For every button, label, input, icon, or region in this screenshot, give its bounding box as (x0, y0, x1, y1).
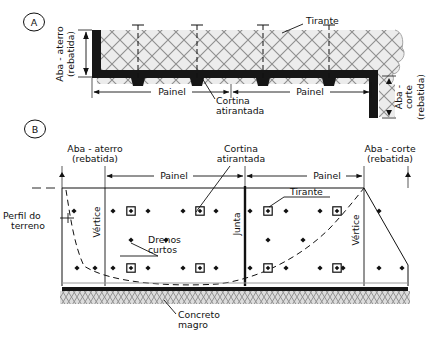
cortina-label-a-line2: atirantada (216, 105, 264, 116)
aba-aterro-label-a-line1: Aba - aterro (54, 26, 65, 82)
cortina-label-b-line2: atirantada (217, 153, 265, 164)
painel-label-a-left: Painel (158, 86, 186, 97)
aba-aterro-label-b-line2: (rebatida) (72, 153, 118, 164)
tirante-label-a: Tirante (305, 15, 339, 26)
concreto-label-b-line2: magro (178, 319, 208, 330)
painel-label-a-right: Painel (296, 86, 324, 97)
drenos-label-b-line2: curtos (148, 244, 177, 255)
painel-label-b-left: Painel (160, 170, 188, 181)
panel-b-tag-text: B (32, 124, 39, 135)
aba-corte-label-a-line2: corte (403, 85, 414, 109)
wall-flange-left-a (92, 30, 101, 77)
base-slab-b (62, 287, 408, 291)
painel-label-b-right: Painel (313, 170, 341, 181)
wall-flange-right-a (369, 70, 378, 118)
aba-aterro-dim-a: Aba - aterro (rebatida) (54, 26, 92, 82)
aba-aterro-label-a-line2: (rebatida) (65, 31, 76, 77)
wall-main-a (92, 70, 377, 78)
aba-corte-label-a-line3: (rebatida) (415, 74, 426, 120)
diagram-canvas: A (0, 0, 435, 339)
lean-concrete-band-b (60, 291, 410, 304)
aba-corte-label-b-line2: (rebatida) (367, 153, 413, 164)
vertice-label-b-left: Vértice (92, 206, 102, 238)
panel-a-tag-text: A (31, 17, 38, 28)
junta-label-b: Junta (232, 212, 242, 236)
perfil-label-b-line2: terreno (11, 220, 45, 231)
tirante-label-b: Tirante (289, 186, 323, 197)
vertice-label-b-right: Vértice (351, 214, 361, 246)
technical-drawing-figure: A (0, 0, 435, 339)
